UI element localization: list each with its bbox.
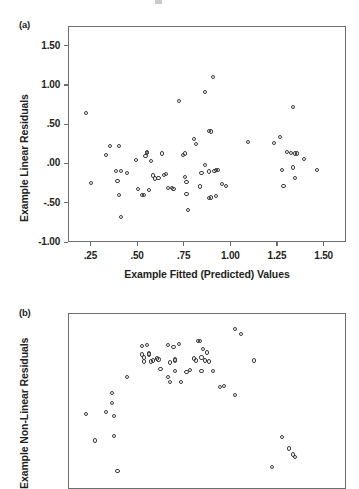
data-point (252, 358, 256, 362)
data-point (110, 391, 114, 395)
data-point (183, 151, 187, 155)
data-point (233, 393, 237, 397)
data-point (214, 194, 218, 198)
data-point (108, 144, 112, 148)
panel-b-plot-area (68, 313, 346, 489)
panel-b: (b) Example Non-Linear Residuals -.50.00… (0, 290, 359, 489)
data-point (177, 342, 181, 346)
data-point (119, 215, 123, 219)
data-point (115, 179, 119, 183)
data-point (291, 105, 295, 109)
data-point (104, 153, 108, 157)
data-point (149, 159, 153, 163)
data-point (203, 90, 207, 94)
data-point (222, 384, 226, 388)
figure-container: (a) Example Linear Residuals -1.00-.50.0… (0, 0, 359, 489)
data-point (104, 410, 108, 414)
data-point (291, 165, 295, 169)
data-point (315, 168, 319, 172)
data-point (142, 193, 146, 197)
data-point (209, 195, 213, 199)
panel-b-ylabel: Example Non-Linear Residuals (18, 338, 30, 489)
data-point (293, 455, 297, 459)
y-tick-mark (64, 163, 68, 164)
data-point (147, 188, 151, 192)
data-point (270, 465, 274, 469)
data-point (166, 375, 170, 379)
data-point (136, 187, 140, 191)
data-point (147, 352, 151, 356)
data-point (302, 157, 306, 161)
data-point (199, 171, 203, 175)
data-point (84, 412, 88, 416)
data-point (281, 184, 285, 188)
data-point (171, 345, 175, 349)
data-point (207, 359, 211, 363)
data-point (156, 176, 160, 180)
x-tick-label: .75 (162, 250, 206, 261)
data-point (199, 369, 203, 373)
data-point (119, 169, 123, 173)
data-point (203, 163, 207, 167)
data-point (280, 168, 284, 172)
data-point (166, 343, 170, 347)
data-point (112, 414, 116, 418)
y-tick-mark (64, 202, 68, 203)
data-point (134, 158, 138, 162)
data-point (117, 144, 121, 148)
y-tick-label: -.50 (6, 197, 60, 208)
data-point (207, 169, 211, 173)
data-point (115, 469, 119, 473)
panel-a-scatter-points (69, 27, 345, 241)
y-tick-mark (64, 124, 68, 125)
data-point (117, 193, 121, 197)
data-point (179, 380, 183, 384)
data-point (156, 357, 160, 361)
data-point (177, 99, 181, 103)
data-point (164, 172, 168, 176)
x-tick-mark (137, 242, 138, 246)
data-point (184, 180, 188, 184)
x-tick-label: .50 (115, 250, 159, 261)
y-tick-label: 1.50 (6, 40, 60, 51)
panel-b-scatter-points (69, 314, 345, 488)
data-point (125, 171, 129, 175)
data-point (173, 369, 177, 373)
data-point (142, 359, 146, 363)
data-point (160, 151, 164, 155)
data-point (184, 192, 188, 196)
y-tick-mark (64, 242, 68, 243)
data-point (272, 141, 276, 145)
x-tick-mark (323, 242, 324, 246)
data-point (186, 208, 190, 212)
data-point (168, 360, 172, 364)
x-tick-label: 1.25 (255, 250, 299, 261)
data-point (216, 168, 220, 172)
data-point (239, 332, 243, 336)
data-point (295, 151, 299, 155)
data-point (192, 137, 196, 141)
panel-a-xlabel: Example Fitted (Predicted) Values (68, 268, 346, 280)
data-point (211, 75, 215, 79)
data-point (93, 438, 97, 442)
panel-b-tag: (b) (19, 307, 31, 318)
data-point (194, 358, 198, 362)
data-point (168, 380, 172, 384)
data-point (198, 339, 202, 343)
panel-a-tag: (a) (19, 19, 30, 30)
data-point (145, 151, 149, 155)
data-point (125, 375, 129, 379)
data-point (287, 446, 291, 450)
data-point (280, 435, 284, 439)
y-tick-label: .00 (6, 157, 60, 168)
y-tick-label: -1.00 (6, 236, 60, 247)
data-point (224, 184, 228, 188)
data-point (246, 140, 250, 144)
data-point (140, 344, 144, 348)
data-point (84, 111, 88, 115)
data-point (233, 327, 237, 331)
data-point (89, 181, 93, 185)
x-tick-mark (276, 242, 277, 246)
x-tick-mark (230, 242, 231, 246)
x-tick-label: 1.00 (208, 250, 252, 261)
